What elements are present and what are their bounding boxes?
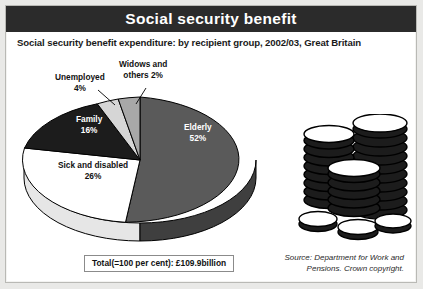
pie-chart — [20, 84, 260, 234]
label-elderly-text: Elderly — [184, 122, 212, 132]
label-unemployed-text: Unemployed — [55, 72, 105, 82]
source-line-1: Source: Department for Work and — [284, 253, 404, 264]
label-sick-pct: 26% — [85, 171, 102, 181]
source-line-2: Pensions. Crown copyright. — [284, 264, 404, 275]
label-widows-line2: others 2% — [123, 70, 163, 80]
title-bar: Social security benefit — [6, 6, 416, 32]
chart-card: Social security benefit Social security … — [5, 5, 417, 283]
label-family-pct: 16% — [81, 125, 98, 135]
label-sick-and-disabled: Sick and disabled 26% — [58, 160, 128, 181]
label-widows-and-others: Widows and others 2% — [119, 59, 167, 80]
label-family: Family 16% — [76, 114, 102, 135]
page-title: Social security benefit — [125, 10, 296, 28]
label-elderly-pct: 52% — [190, 133, 207, 143]
total-note: Total(=100 per cent): £109.9billion — [84, 255, 234, 272]
chart-stage: Unemployed 4% Widows and others 2% Famil… — [6, 52, 416, 248]
label-sick-text: Sick and disabled — [58, 160, 128, 170]
source-note: Source: Department for Work and Pensions… — [284, 253, 404, 274]
label-unemployed-pct: 4% — [74, 83, 86, 93]
page-background: Social security benefit Social security … — [0, 0, 423, 289]
label-unemployed: Unemployed 4% — [55, 72, 105, 93]
coin-stacks-illustration — [298, 114, 416, 242]
label-elderly: Elderly 52% — [184, 122, 212, 143]
pie-slice-elderly — [126, 97, 239, 222]
chart-subtitle: Social security benefit expenditure: by … — [17, 37, 361, 48]
label-family-text: Family — [76, 114, 102, 124]
label-widows-line1: Widows and — [119, 59, 167, 69]
pie-chart-svg — [20, 84, 260, 234]
